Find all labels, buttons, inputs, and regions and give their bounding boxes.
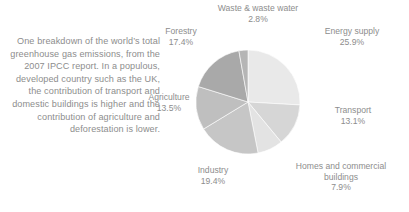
pie-label-transport-value: 13.1%: [318, 116, 388, 127]
pie-slice-energy-supply: [248, 50, 300, 105]
pie-label-industry-value: 19.4%: [178, 176, 248, 187]
pie-label-waste: Waste & waste water 2.8%: [198, 3, 318, 24]
pie-label-homes-value: 7.9%: [278, 182, 404, 193]
pie-label-agriculture: Agriculture 13.5%: [132, 92, 206, 113]
pie-slice-group: [196, 50, 300, 154]
pie-label-industry-name: Industry: [198, 165, 229, 175]
pie-label-transport: Transport 13.1%: [318, 105, 388, 126]
pie-label-agriculture-value: 13.5%: [132, 103, 206, 114]
pie-label-industry: Industry 19.4%: [178, 165, 248, 186]
pie-label-homes-name: Homes and commercial buildings: [296, 161, 386, 182]
pie-chart: Waste & waste water 2.8% Energy supply 2…: [0, 0, 409, 212]
pie-label-transport-name: Transport: [335, 105, 371, 115]
pie-label-homes-and-commercial-buildings: Homes and commercial buildings 7.9%: [278, 161, 404, 193]
pie-chart-svg: [196, 50, 300, 154]
pie-label-forestry: Forestry 17.4%: [148, 26, 214, 47]
pie-label-forestry-value: 17.4%: [148, 37, 214, 48]
pie-label-energy-supply: Energy supply 25.9%: [310, 26, 394, 47]
pie-label-energy-supply-value: 25.9%: [310, 37, 394, 48]
pie-label-energy-supply-name: Energy supply: [325, 26, 379, 36]
pie-label-waste-name: Waste & waste water: [218, 3, 298, 13]
figure-greenhouse-gas-emissions: One breakdown of the world’s total green…: [0, 0, 409, 212]
pie-label-waste-value: 2.8%: [198, 14, 318, 25]
pie-label-agriculture-name: Agriculture: [148, 92, 189, 102]
pie-label-forestry-name: Forestry: [165, 26, 197, 36]
